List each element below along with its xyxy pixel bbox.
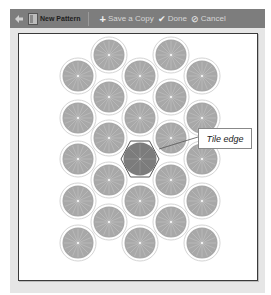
tile-edge-callout: Tile edge <box>198 128 252 149</box>
selected-tile <box>121 141 159 177</box>
